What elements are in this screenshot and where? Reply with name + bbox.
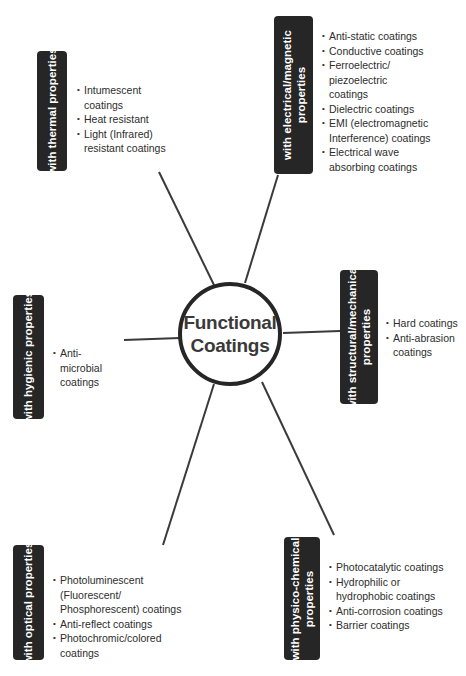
connector-thermal: [159, 172, 214, 285]
connector-hygienic: [124, 338, 180, 340]
list-item: Light (Infrared) resistant coatings: [77, 127, 166, 156]
connector-physico-chemical: [262, 382, 334, 535]
list-item: Photoluminescent (Fluorescent/ Phosphore…: [53, 573, 200, 617]
connector-optical: [163, 384, 214, 545]
category-box-hygienic: with hygienic properties: [13, 295, 44, 419]
list-item: Photocatalytic coatings: [329, 560, 454, 575]
category-label-structural: with structural/mechanical properties: [345, 264, 373, 409]
list-item: Barrier coatings: [329, 618, 454, 633]
central-topic-circle: Functional Coatings: [178, 282, 282, 386]
connector-structural: [283, 331, 340, 333]
item-list-optical: Photoluminescent (Fluorescent/ Phosphore…: [53, 573, 203, 660]
item-list-physico-chemical: Photocatalytic coatings Hydrophilic or h…: [329, 560, 454, 633]
connector-electrical: [245, 175, 278, 283]
category-label-optical: with optical properties: [22, 541, 36, 664]
category-box-structural: with structural/mechanical properties: [340, 270, 378, 404]
list-item: Ferroelectric/ piezoelectric coatings: [322, 58, 429, 102]
list-item: EMI (electromagnetic Interference) coati…: [322, 116, 437, 145]
item-list-thermal: Intumescent coatings Heat resistant Ligh…: [77, 83, 177, 156]
central-topic-line-1: Functional: [183, 311, 276, 334]
central-topic-line-2: Coatings: [191, 334, 270, 357]
category-box-electrical: with electrical/magnetic properties: [274, 16, 313, 174]
list-item: Anti-static coatings: [322, 29, 440, 44]
list-item: Anti-abrasion coatings: [386, 331, 458, 360]
list-item: Anti-reflect coatings: [53, 617, 203, 632]
list-item: Heat resistant: [77, 112, 177, 127]
category-label-physico-chemical: with physico-chemical properties: [288, 537, 316, 660]
category-label-electrical: with electrical/magnetic properties: [280, 30, 308, 160]
item-list-hygienic: Anti-microbial coatings: [53, 346, 123, 390]
list-item: Dielectric coatings: [322, 102, 440, 117]
list-item: Photochromic/colored coatings: [53, 631, 203, 660]
list-item: Hydrophilic or hydrophobic coatings: [329, 575, 454, 604]
category-label-hygienic: with hygienic properties: [22, 291, 36, 423]
category-label-thermal: with thermal properties: [45, 47, 59, 174]
item-list-electrical: Anti-static coatings Conductive coatings…: [322, 29, 440, 174]
functional-coatings-mind-map: Functional Coatings with thermal propert…: [0, 0, 466, 676]
list-item: Intumescent coatings: [77, 83, 177, 112]
list-item: Electrical wave absorbing coatings: [322, 145, 429, 174]
category-box-optical: with optical properties: [13, 545, 44, 660]
list-item: Hard coatings: [386, 316, 458, 331]
category-box-physico-chemical: with physico-chemical properties: [284, 537, 320, 660]
category-box-thermal: with thermal properties: [37, 51, 67, 171]
list-item: Anti-microbial coatings: [53, 346, 123, 390]
list-item: Anti-corrosion coatings: [329, 604, 454, 619]
item-list-structural: Hard coatings Anti-abrasion coatings: [386, 316, 458, 360]
list-item: Conductive coatings: [322, 44, 440, 59]
